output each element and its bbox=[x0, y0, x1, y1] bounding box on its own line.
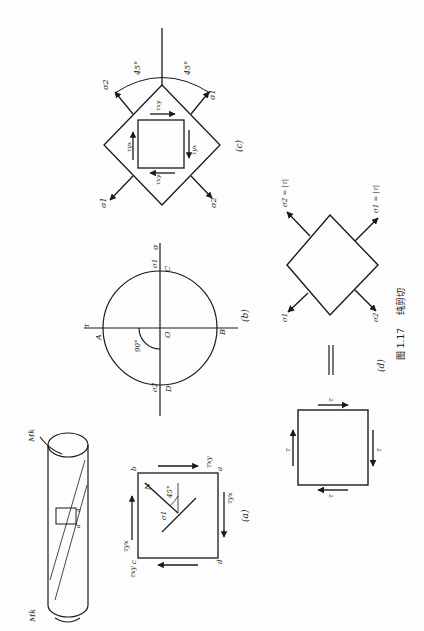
panel-d-tau-top: τ bbox=[327, 398, 335, 402]
panel-b bbox=[84, 243, 238, 416]
mohr-origin: O bbox=[163, 331, 172, 338]
panel-a-tau-bottom: τxy bbox=[129, 565, 137, 578]
mohr-point-b: B bbox=[218, 329, 227, 336]
panel-c-sigma-top-right: σ1 bbox=[208, 89, 217, 100]
mohr-angle-arc bbox=[139, 328, 160, 349]
panel-c-sigma-bottom-right: σ2 bbox=[209, 197, 218, 208]
panel-c-angle-left: 45° bbox=[133, 61, 142, 76]
panel-d-square bbox=[298, 410, 368, 485]
figure-number: 图 1.17 bbox=[396, 328, 406, 360]
panel-c-sigma2-arrow-bottom bbox=[191, 176, 212, 198]
mohr-point-d: D bbox=[164, 385, 173, 393]
panel-c-sigma1-arrow-bottom bbox=[110, 176, 133, 200]
panel-c-diamond bbox=[104, 85, 220, 205]
torque-label-top: Mk bbox=[27, 429, 36, 443]
panel-a-tau-top: τxy bbox=[205, 455, 213, 468]
mohr-tau-label: τ bbox=[82, 323, 91, 328]
panel-d-tau-right: τ bbox=[375, 448, 383, 452]
panel-a bbox=[132, 466, 224, 565]
panel-c-sigma-top-left: σ2 bbox=[101, 79, 110, 90]
cylinder-bottom bbox=[48, 605, 88, 617]
panel-a-angle: 45° bbox=[166, 486, 174, 499]
panel-c-label: (c) bbox=[234, 139, 244, 152]
panel-a-label: (a) bbox=[240, 509, 250, 522]
cylinder-corner-a: a bbox=[74, 508, 81, 512]
panel-a-normal-label: N bbox=[143, 482, 152, 491]
mohr-point-a: A bbox=[94, 334, 103, 341]
cylinder-corner-d: d bbox=[74, 524, 81, 528]
cylinder-helix-2 bbox=[55, 485, 87, 600]
panel-d-label: (d) bbox=[376, 359, 386, 372]
panel-d-sigma1-arrow bbox=[355, 218, 378, 241]
panel-b-label: (b) bbox=[240, 309, 250, 322]
panel-c-tau-bottom: τxy bbox=[154, 174, 162, 185]
panel-a-corner-b: b bbox=[130, 466, 138, 471]
panel-a-corner-a: a bbox=[216, 467, 224, 471]
panel-d-tau-bottom: τ bbox=[327, 494, 335, 498]
panel-c-sigma2-arrow-top bbox=[115, 92, 133, 114]
torque-label-bottom: Mk bbox=[28, 609, 37, 623]
panel-d-sigma1-short: σ1 bbox=[281, 313, 289, 322]
panel-c-tau-left: τyx bbox=[125, 141, 133, 152]
panel-a-corner-c: c bbox=[130, 560, 138, 564]
panel-c-sigma-bottom-left: σ1 bbox=[99, 197, 108, 208]
panel-c-sigma1-arrow-top bbox=[191, 92, 209, 114]
panel-d bbox=[287, 212, 378, 490]
panel-d-tau-left: τ bbox=[284, 448, 292, 452]
panel-c-tau-top: τxy bbox=[154, 100, 162, 111]
figure-title: 纯剪切 bbox=[395, 288, 406, 315]
panel-d-sigma2-arrow-bottom bbox=[355, 290, 376, 311]
mohr-point-c: C bbox=[163, 266, 172, 272]
cylinder-helix-1 bbox=[50, 460, 85, 580]
panel-a-sigma-label: σ1 bbox=[160, 511, 168, 520]
panel-d-sigma1-label: σ1 = |τ| bbox=[372, 185, 380, 213]
mohr-sigma2: σ2 bbox=[151, 382, 159, 392]
panel-d-sigma2-arrow bbox=[287, 212, 310, 236]
panel-d-sigma1-arrow-bottom bbox=[288, 293, 308, 312]
mohr-angle-label: 90° bbox=[134, 340, 142, 352]
panel-c-inner-square bbox=[138, 120, 184, 168]
panel-a-corner-d: d bbox=[216, 559, 224, 564]
panel-d-sigma2-short: σ2 bbox=[372, 312, 380, 322]
panel-c-tau-right: τyx bbox=[190, 144, 198, 155]
figure-canvas: 45° 45° σ2 σ1 σ1 σ2 τxy τyx τyx τxy (c) … bbox=[0, 0, 424, 631]
panel-c bbox=[104, 28, 220, 205]
cylinder-element bbox=[56, 508, 76, 524]
cylinder-top bbox=[48, 433, 88, 457]
panel-a-tau-left: τyx bbox=[122, 540, 130, 552]
panel-a-tau-right: τyx bbox=[226, 492, 234, 504]
panel-d-sigma2-label: σ2 = |τ| bbox=[281, 179, 289, 207]
torque-arrow-bottom bbox=[55, 618, 80, 622]
panel-c-angle-right: 45° bbox=[183, 61, 192, 76]
mohr-sigma1: σ1 bbox=[151, 259, 159, 268]
mohr-sigma-label: σ bbox=[151, 244, 160, 250]
